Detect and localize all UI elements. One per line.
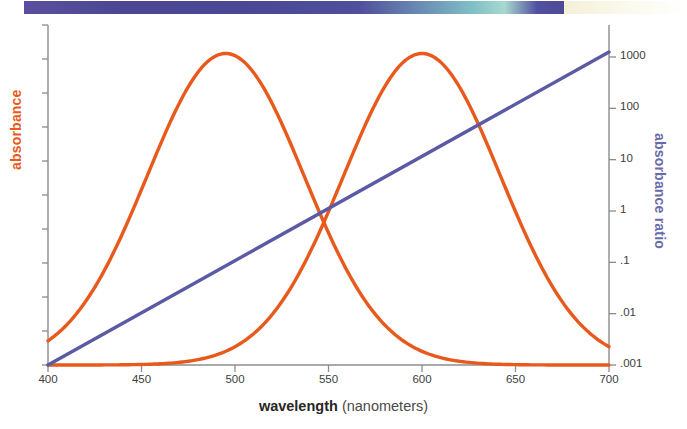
right-axis-tick-label: 100 [620, 100, 666, 112]
series-group [48, 52, 609, 365]
right-axis-tick-label: .1 [620, 254, 666, 266]
x-axis-tick-label: 700 [586, 373, 632, 385]
x-axis-tick-label: 500 [212, 373, 258, 385]
chart-plot-area [0, 0, 687, 429]
right-axis-tick-label: 1 [620, 203, 666, 215]
x-axis-tick-label: 450 [119, 373, 165, 385]
x-axis-title-paren: (nanometers) [342, 398, 428, 414]
x-axis-tick-label: 600 [399, 373, 445, 385]
right-axis-tick-label: 1000 [620, 49, 666, 61]
chart-page: absorbance absorbance ratio wavelength (… [0, 0, 687, 429]
x-axis-title-strong: wavelength [259, 398, 338, 414]
right-axis-tick-label: 10 [620, 152, 666, 164]
right-axis-tick-label: .001 [620, 357, 666, 369]
y-axis-left-title: absorbance [8, 50, 24, 170]
x-axis-title: wavelength (nanometers) [0, 398, 687, 414]
right-axis-tick-label: .01 [620, 306, 666, 318]
x-axis-tick-label: 400 [25, 373, 71, 385]
x-axis-tick-label: 650 [493, 373, 539, 385]
x-axis-tick-label: 550 [306, 373, 352, 385]
chart-svg [0, 0, 687, 429]
